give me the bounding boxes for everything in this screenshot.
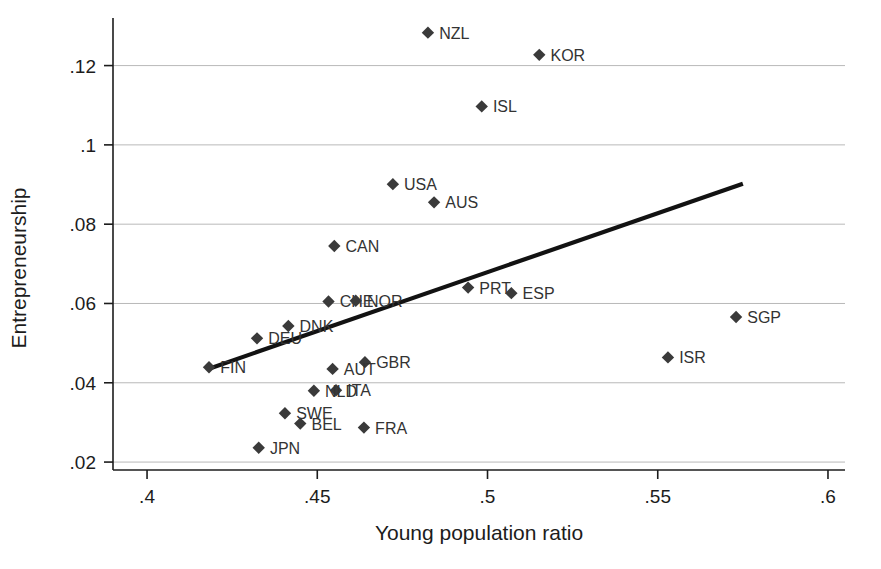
data-point-NZL: NZL <box>422 25 470 42</box>
data-point-AUS: AUS <box>428 194 478 211</box>
y-tick-label-4: .1 <box>80 135 96 156</box>
marker-JPN <box>253 442 265 454</box>
gridlines <box>113 66 845 462</box>
point-label-USA: USA <box>404 176 437 193</box>
point-label-BEL: BEL <box>311 416 341 433</box>
marker-AUS <box>428 196 440 208</box>
point-label-AUT: AUT <box>344 361 376 378</box>
y-tick-label-1: .04 <box>70 373 97 394</box>
point-label-KOR: KOR <box>550 47 585 64</box>
point-label-ISL: ISL <box>493 98 517 115</box>
data-point-FRA: FRA <box>358 420 408 437</box>
point-label-ISR: ISR <box>679 349 706 366</box>
data-point-ISR: ISR <box>662 349 706 366</box>
data-point-JPN: JPN <box>253 440 301 457</box>
chart-root: NZLKORISLUSAAUSCANPRTESPCHENORSGPDNKDEUI… <box>0 0 881 569</box>
point-label-CAN: CAN <box>346 238 380 255</box>
marker-DEU <box>251 332 263 344</box>
data-point-DEU: DEU <box>251 330 302 347</box>
marker-AUT <box>326 363 338 375</box>
x-tick-label-4: .6 <box>820 486 836 507</box>
point-label-FRA: FRA <box>375 420 407 437</box>
data-point-ISL: ISL <box>476 98 518 115</box>
data-point-PRT: PRT <box>462 280 511 297</box>
marker-NZL <box>422 26 434 38</box>
marker-ISL <box>476 100 488 112</box>
y-tick-label-3: .08 <box>70 214 96 235</box>
data-point-USA: USA <box>387 176 438 193</box>
y-tick-label-2: .06 <box>70 293 96 314</box>
y-tick-label-0: .02 <box>70 452 96 473</box>
point-label-NLD: NLD <box>325 383 357 400</box>
y-axis-title: Entrepreneurship <box>7 187 30 348</box>
x-axis-title: Young population ratio <box>375 521 583 544</box>
scatter-plot: NZLKORISLUSAAUSCANPRTESPCHENORSGPDNKDEUI… <box>0 0 881 569</box>
data-point-AUT: AUT <box>326 361 376 378</box>
marker-USA <box>387 178 399 190</box>
marker-NLD <box>308 385 320 397</box>
marker-CAN <box>328 240 340 252</box>
data-points: NZLKORISLUSAAUSCANPRTESPCHENORSGPDNKDEUI… <box>203 25 781 457</box>
point-label-JPN: JPN <box>270 440 300 457</box>
point-label-DEU: DEU <box>268 330 302 347</box>
data-point-CAN: CAN <box>328 238 379 255</box>
point-label-SGP: SGP <box>747 309 781 326</box>
marker-SWE <box>279 407 291 419</box>
marker-CHE <box>322 295 334 307</box>
data-point-CHE: CHE <box>322 293 373 310</box>
x-axis-ticks: .4.45.5.55.6 <box>139 470 836 507</box>
data-point-FIN: FIN <box>203 359 246 376</box>
x-tick-label-0: .4 <box>139 486 155 507</box>
marker-FIN <box>203 361 215 373</box>
point-label-FIN: FIN <box>220 359 246 376</box>
y-axis-ticks: .02.04.06.08.1.12 <box>70 56 113 473</box>
plot-frame <box>113 18 845 470</box>
marker-PRT <box>462 281 474 293</box>
point-label-GBR: GBR <box>376 354 411 371</box>
x-tick-label-3: .55 <box>645 486 671 507</box>
point-label-AUS: AUS <box>445 194 478 211</box>
marker-ISR <box>662 351 674 363</box>
point-label-ESP: ESP <box>523 285 555 302</box>
point-label-NZL: NZL <box>439 25 469 42</box>
y-tick-label-5: .12 <box>70 56 96 77</box>
marker-FRA <box>358 421 370 433</box>
x-tick-label-1: .45 <box>304 486 330 507</box>
data-point-ESP: ESP <box>505 285 554 302</box>
marker-KOR <box>533 49 545 61</box>
marker-SGP <box>730 311 742 323</box>
point-label-NOR: NOR <box>367 293 403 310</box>
x-tick-label-2: .5 <box>480 486 496 507</box>
point-label-DNK: DNK <box>300 318 334 335</box>
data-point-SGP: SGP <box>730 309 781 326</box>
data-point-KOR: KOR <box>533 47 585 64</box>
data-point-NLD: NLD <box>308 383 357 400</box>
